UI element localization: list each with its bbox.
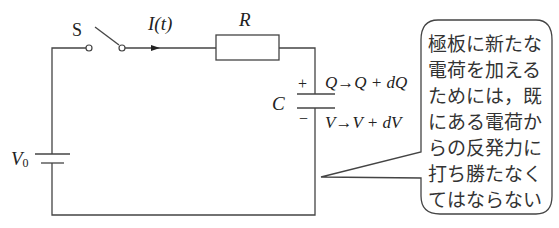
callout-line-1: 極板に新たな [428,33,542,55]
circuit-wires [52,48,315,215]
rc-circuit-diagram: S I(t) R + − C Q→Q + dQ V→V + dV V0 極板に新… [0,0,559,228]
callout-line-5: らの反発力に [428,137,542,159]
callout-line-3: ためには，既 [428,85,542,107]
current-label: I(t) [147,13,172,35]
resistor-symbol [216,35,279,60]
callout-line-4: にある電荷か [428,111,542,133]
callout-text: 極板に新たな 電荷を加える ためには，既 にある電荷か らの反発力に 打ち勝たな… [428,33,542,211]
switch-symbol [86,27,125,51]
plus-sign: + [298,75,307,92]
voltage-change-label: V→V + dV [325,113,404,132]
current-arrow-icon [151,45,160,51]
resistor-label: R [238,9,251,30]
battery-symbol [35,154,70,163]
battery-label: V0 [11,148,29,170]
callout-line-6: 打ち勝たなく [428,163,542,185]
capacitor-label: C [272,93,285,114]
callout-line-2: 電荷を加える [428,59,541,81]
charge-change-label: Q→Q + dQ [325,73,407,92]
minus-sign: − [299,110,308,127]
switch-label: S [72,20,82,40]
callout-line-7: てはならない [428,189,542,211]
capacitor-symbol [297,94,335,108]
